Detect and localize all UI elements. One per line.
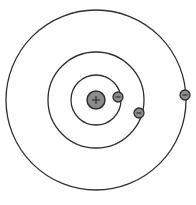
electron — [134, 108, 144, 118]
nucleus — [87, 91, 105, 109]
atom-diagram — [0, 0, 196, 205]
electron — [113, 92, 123, 102]
electron — [180, 90, 190, 100]
